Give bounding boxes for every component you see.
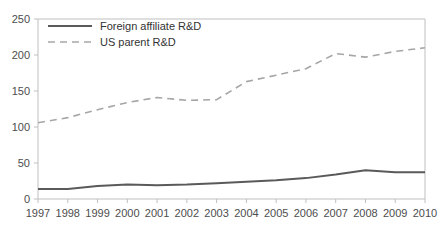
x-axis-tick-label: 2002 [175,207,199,219]
x-axis-tick-label: 1997 [26,207,50,219]
x-axis-tick-label: 2009 [383,207,407,219]
x-axis-tick-label: 2000 [115,207,139,219]
x-axis-tick-label: 2003 [204,207,228,219]
x-axis-tick-label: 2010 [413,207,437,219]
x-axis-tick-label: 2006 [294,207,318,219]
chart-canvas: 0501001502002501997199819992000200120022… [0,0,438,232]
legend-label-0: Foreign affiliate R&D [100,20,201,32]
line-chart: 0501001502002501997199819992000200120022… [0,0,438,232]
y-axis-tick-label: 150 [12,85,30,97]
x-axis-tick-label: 1998 [56,207,80,219]
legend-label-1: US parent R&D [100,36,176,48]
x-axis-tick-label: 1999 [85,207,109,219]
x-axis-tick-label: 2001 [145,207,169,219]
x-axis-tick-label: 2007 [323,207,347,219]
y-axis-tick-label: 50 [18,157,30,169]
y-axis-tick-label: 200 [12,49,30,61]
y-axis-tick-label: 100 [12,121,30,133]
series-line-0 [38,170,425,189]
y-axis-tick-label: 0 [24,193,30,205]
x-axis-tick-label: 2005 [264,207,288,219]
y-axis-tick-label: 250 [12,13,30,25]
x-axis-tick-label: 2004 [234,207,258,219]
x-axis-tick-label: 2008 [353,207,377,219]
series-line-1 [38,48,425,123]
